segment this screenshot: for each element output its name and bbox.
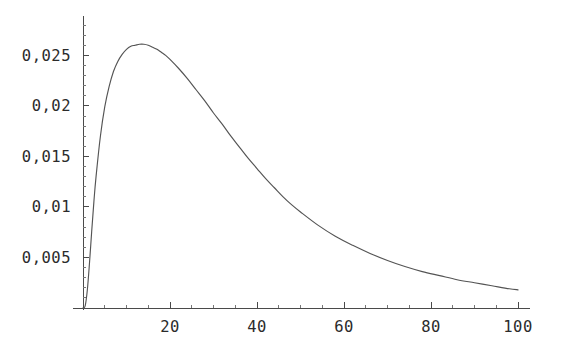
x-tick-label: 20 — [160, 318, 180, 336]
y-axis-tick-labels: 0,0050,010,0150,020,025 — [22, 47, 71, 267]
density-curve — [83, 44, 518, 308]
chart-container: 20406080100 0,0050,010,0150,020,025 — [0, 0, 562, 343]
axes-group — [73, 16, 530, 310]
y-tick-label: 0,025 — [22, 47, 71, 65]
x-tick-label: 80 — [421, 318, 441, 336]
x-axis-major-ticks — [170, 302, 518, 308]
x-axis-tick-labels: 20406080100 — [160, 318, 533, 336]
y-tick-label: 0,015 — [22, 148, 71, 166]
x-tick-label: 100 — [503, 318, 533, 336]
y-tick-label: 0,01 — [32, 198, 71, 216]
density-plot-svg: 20406080100 0,0050,010,0150,020,025 — [0, 0, 562, 343]
y-tick-label: 0,005 — [22, 249, 71, 267]
x-tick-label: 60 — [334, 318, 354, 336]
x-tick-label: 40 — [247, 318, 267, 336]
y-tick-label: 0,02 — [32, 97, 71, 115]
